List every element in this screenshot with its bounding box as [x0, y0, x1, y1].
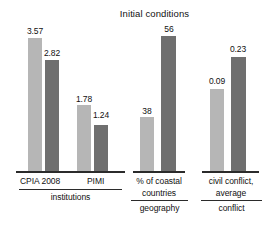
group-label-conflict: conflict	[201, 203, 262, 213]
group-label-geography: geography	[131, 203, 188, 213]
group-label-institutions: institutions	[19, 192, 122, 202]
group-rule-institutions	[19, 189, 122, 190]
baseline-conflict	[202, 171, 259, 173]
category-label-coastal: % of coastal countries	[126, 176, 192, 199]
bar-value-label-conflict-dark: 0.23	[225, 44, 251, 54]
bar-conflict-dark	[231, 57, 246, 171]
bar-value-label-coastal-dark: 56	[156, 24, 182, 34]
bar-coastal-dark	[161, 36, 176, 171]
group-rule-geography	[131, 200, 188, 201]
category-label-conflict-line1: civil conflict,	[196, 176, 266, 188]
category-label-cpia: CPIA 2008	[20, 176, 60, 186]
bar-pimi-dark	[94, 125, 108, 171]
bar-value-label-pimi-light: 1.78	[71, 94, 97, 104]
bar-cpia-dark	[45, 60, 59, 171]
bar-value-label-conflict-light: 0.09	[204, 76, 230, 86]
baseline-institutions	[16, 171, 125, 173]
bar-value-label-coastal-light: 38	[134, 106, 160, 116]
category-label-conflict-line2: average	[196, 188, 266, 200]
bar-value-label-cpia-light: 3.57	[22, 26, 48, 36]
bar-chart: Initial conditions 3.57 2.82 1.78 1.24 3…	[0, 0, 277, 232]
category-label-coastal-line1: % of coastal	[126, 176, 192, 188]
category-label-coastal-line2: countries	[126, 188, 192, 200]
bar-coastal-light	[140, 117, 154, 171]
bar-value-label-cpia-dark: 2.82	[39, 48, 65, 58]
category-label-conflict: civil conflict, average	[196, 176, 266, 199]
bar-value-label-pimi-dark: 1.24	[88, 110, 114, 120]
baseline-geography	[133, 171, 185, 173]
category-label-pimi: PIMI	[87, 176, 104, 186]
bar-conflict-light	[210, 89, 224, 171]
group-rule-conflict	[201, 200, 262, 201]
